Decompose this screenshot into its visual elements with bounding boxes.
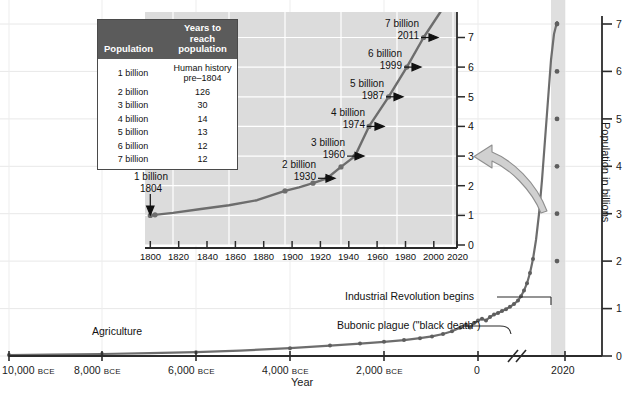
table-cell-population: 6 billion: [98, 139, 169, 153]
milestone-population: 6 billion: [368, 48, 402, 59]
inset-y-tick-7: 7: [468, 31, 474, 43]
table-row: 4 billion 14: [98, 112, 238, 126]
milestone-population: 4 billion: [331, 107, 365, 118]
table-cell-years: 30: [168, 99, 238, 113]
main-x-tick-3: 4,000 BCE: [262, 364, 309, 376]
milestone-population: 3 billion: [311, 137, 345, 148]
table-cell-years: 14: [168, 112, 238, 126]
table-row: 1 billion Human history pre–1804: [98, 59, 238, 86]
inset-milestone-4-billion: 4 billion 1974: [297, 107, 365, 130]
population-growth-chart: 10,000 BCE 8,000 BCE 6,000 BCE 4,000 BCE…: [0, 0, 636, 395]
main-x-tick-4: 2,000 BCE: [356, 364, 403, 376]
main-y-tick-2: 2: [616, 255, 622, 267]
inset-y-tick-1: 1: [468, 209, 474, 221]
milestone-year: 1987: [362, 90, 384, 101]
table-cell-population: 1 billion: [98, 59, 169, 86]
milestone-population: 2 billion: [282, 159, 316, 170]
table-header-years-line1: Years to reach: [184, 22, 221, 44]
main-y-tick-0: 0: [616, 350, 622, 362]
main-y-tick-1: 1: [616, 302, 622, 314]
years-line1: Human history: [173, 63, 231, 73]
annotation-bubonic-plague: Bubonic plague ("black death"): [337, 319, 480, 331]
inset-milestone-2-billion: 2 billion 1930: [248, 159, 316, 182]
table-cell-population: 2 billion: [98, 85, 169, 99]
recent-era-highlight-band: [551, 0, 565, 356]
milestone-year: 1974: [343, 119, 365, 130]
inset-y-tick-5: 5: [468, 91, 474, 103]
annotation-agriculture: Agriculture: [92, 325, 142, 337]
main-x-tick-1: 8,000 BCE: [74, 364, 121, 376]
table-cell-population: 4 billion: [98, 112, 169, 126]
table-header: Population Years to reach population: [98, 20, 238, 59]
table-row: 6 billion 12: [98, 139, 238, 153]
inset-milestone-6-billion: 6 billion 1999: [334, 48, 402, 71]
inset-milestone-1-billion: 1 billion 1804: [120, 171, 182, 194]
main-x-tick-6: 2020: [551, 364, 575, 376]
table-row: 2 billion 126: [98, 85, 238, 99]
annotation-industrial-revolution: Industrial Revolution begins: [345, 290, 474, 302]
inset-milestone-7-billion: 7 billion 2011: [351, 18, 419, 41]
table-cell-population: 5 billion: [98, 126, 169, 140]
inset-callout-arrow: [474, 145, 547, 213]
table-body: 1 billion Human history pre–1804 2 billi…: [98, 59, 238, 170]
table-header-row: Population Years to reach population: [98, 20, 238, 59]
inset-y-tick-2: 2: [468, 180, 474, 192]
table-header-years-line2: population: [178, 43, 227, 54]
milestone-population: 5 billion: [350, 78, 384, 89]
table-row: 7 billion 12: [98, 153, 238, 170]
table-cell-years: 12: [168, 153, 238, 170]
inset-milestone-5-billion: 5 billion 1987: [316, 78, 384, 101]
milestone-year: 1999: [380, 60, 402, 71]
main-y-axis-title: Population in billions: [600, 122, 612, 292]
years-line2: pre–1804: [183, 73, 221, 83]
table-row: 5 billion 13: [98, 126, 238, 140]
milestone-population: 1 billion: [134, 171, 168, 182]
main-y-tick-6: 6: [616, 65, 622, 77]
table-row: 3 billion 30: [98, 99, 238, 113]
main-y-tick-3: 3: [616, 208, 622, 220]
inset-y-tick-4: 4: [468, 120, 474, 132]
milestone-year: 1930: [294, 171, 316, 182]
inset-y-tick-6: 6: [468, 61, 474, 73]
milestone-year: 2011: [397, 30, 419, 41]
milestone-population: 7 billion: [385, 18, 419, 29]
inset-milestone-3-billion: 3 billion 1960: [277, 137, 345, 160]
milestone-year: 1804: [140, 183, 162, 194]
table-header-population: Population: [98, 20, 169, 59]
bubonic-plague-leader-hook: [500, 326, 511, 334]
main-x-tick-2: 6,000 BCE: [168, 364, 215, 376]
inset-y-axis-ticks: [457, 38, 465, 246]
main-y-tick-4: 4: [616, 160, 622, 172]
main-x-tick-0: 10,000 BCE: [2, 364, 55, 376]
table-cell-population: 3 billion: [98, 99, 169, 113]
table-cell-population: 7 billion: [98, 153, 169, 170]
table-cell-years: 12: [168, 139, 238, 153]
main-y-tick-5: 5: [616, 113, 622, 125]
table-header-years: Years to reach population: [168, 20, 238, 59]
table-cell-years: Human history pre–1804: [168, 59, 238, 86]
main-y-tick-7: 7: [616, 18, 622, 30]
years-to-reach-population-table: Population Years to reach population 1 b…: [97, 19, 238, 170]
main-x-tick-5: 0: [474, 364, 480, 376]
milestone-year: 1960: [323, 149, 345, 160]
inset-x-tick-2020: 2020: [440, 251, 475, 262]
main-x-axis-title: Year: [291, 376, 313, 388]
table-cell-years: 13: [168, 126, 238, 140]
table-cell-years: 126: [168, 85, 238, 99]
inset-y-tick-0: 0: [468, 239, 474, 251]
inset-y-tick-3: 3: [468, 150, 474, 162]
